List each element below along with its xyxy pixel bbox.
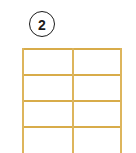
figure-root: 2 — [0, 0, 136, 153]
grid-vline-middle — [72, 48, 74, 153]
step-number-badge: 2 — [29, 11, 55, 37]
step-number-label: 2 — [38, 18, 46, 32]
ruled-grid — [22, 48, 122, 153]
grid-vline-left — [22, 48, 24, 153]
grid-vline-right — [120, 48, 122, 153]
